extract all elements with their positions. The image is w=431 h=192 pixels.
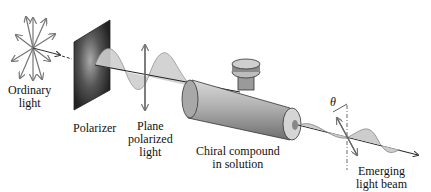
- label-light: light: [8, 97, 51, 110]
- label-light-beam: light beam: [356, 178, 407, 191]
- sample-tube: [182, 59, 301, 140]
- label-emerging-light-beam: Emerging light beam: [356, 165, 407, 191]
- label-ordinary-light: Ordinary light: [8, 84, 51, 110]
- label-polarizer: Polarizer: [73, 122, 116, 135]
- label-in-solution: in solution: [196, 158, 280, 171]
- label-theta-angle: θ: [330, 96, 336, 109]
- label-light-2: light: [128, 146, 173, 159]
- label-chiral-compound: Chiral compound in solution: [196, 145, 280, 171]
- optical-rotation-diagram: Ordinary light Polarizer Plane polarized…: [0, 0, 431, 192]
- label-plane-polarized-light: Plane polarized light: [128, 120, 173, 159]
